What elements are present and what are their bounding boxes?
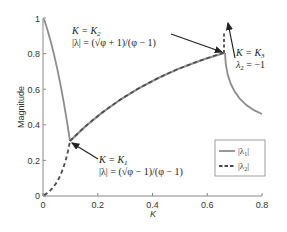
y-tick-label: 0.6: [27, 85, 40, 95]
svg-text:|λ| = (√φ + 1)/(φ − 1): |λ| = (√φ + 1)/(φ − 1): [72, 37, 156, 49]
y-tick-label: 0: [35, 191, 40, 201]
y-tick-label: 0.4: [27, 120, 40, 130]
annotation-k2: K = K2 |λ| = (√φ + 1)/(φ − 1): [71, 25, 156, 49]
series-lambda2-middle: [70, 53, 224, 141]
svg-text:λ2 = −1: λ2 = −1: [235, 59, 265, 72]
svg-text:|λ2|: |λ2|: [238, 161, 249, 172]
y-tick-label: 0.8: [27, 49, 40, 59]
y-tick-label: 0.2: [27, 156, 40, 166]
legend: |λ1| |λ2|: [215, 140, 265, 176]
svg-text:|λ| = (√φ − 1)/(φ − 1): |λ| = (√φ − 1)/(φ − 1): [99, 166, 183, 178]
x-tick-label: 0.8: [256, 200, 269, 210]
x-tick-label: 0.2: [91, 200, 104, 210]
x-tick-label: 0: [40, 200, 45, 210]
annotation-k1: K = K1 |λ| = (√φ − 1)/(φ − 1): [98, 154, 183, 178]
arrow-k1: [72, 143, 98, 159]
x-tick-label: 0.6: [201, 200, 214, 210]
series-lambda1-middle: [70, 53, 224, 141]
chart-canvas: 0 0.2 0.4 0.6 0.8 1 0 0.2 0.4 0.6 0.8 K …: [0, 0, 287, 232]
x-axis-label: K: [150, 209, 157, 219]
y-axis-label: Magnitude: [16, 86, 26, 128]
series-lambda2-left: [44, 141, 70, 195]
annotation-k3: K = K3 λ2 = −1: [235, 47, 265, 72]
svg-text:|λ1|: |λ1|: [238, 146, 249, 157]
arrow-k3: [228, 23, 235, 58]
arrow-k2: [171, 34, 222, 52]
y-tick-label: 1: [35, 14, 40, 24]
series-lambda1-left: [44, 19, 70, 141]
